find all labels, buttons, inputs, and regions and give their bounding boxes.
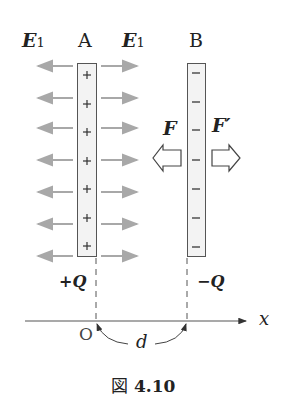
field-subscript: 1 [136,35,144,50]
figure-caption: 図 4.10 [111,378,175,395]
force-arrow-right [212,145,240,171]
separation-arc-left [97,324,128,344]
separation-arc-right [155,324,186,344]
field-subscript: 1 [36,35,44,50]
charge-label-a: +Q [59,274,86,290]
field-symbol: E [22,29,36,51]
plate-b-label: B [189,31,203,50]
caption-prefix: 図 [111,376,128,396]
field-symbol: E [122,29,136,51]
force-label-right: F′ [212,116,231,135]
field-arrows-left [38,66,73,256]
caption-number: 4.10 [134,376,175,396]
origin-label: O [79,326,93,343]
field-label-left: E1 [22,31,45,50]
axis-variable-label: x [259,310,269,328]
figure-4-10: E1 A E1 B F F′ +Q −Q O d x 図 4.10 [0,0,295,413]
field-arrows-right [101,66,137,256]
charge-label-b: −Q [197,274,224,290]
force-label-left: F [163,119,177,138]
separation-label: d [136,333,148,351]
plate-a-label: A [78,31,92,50]
force-arrow-left [153,145,181,171]
field-label-right: E1 [122,31,145,50]
